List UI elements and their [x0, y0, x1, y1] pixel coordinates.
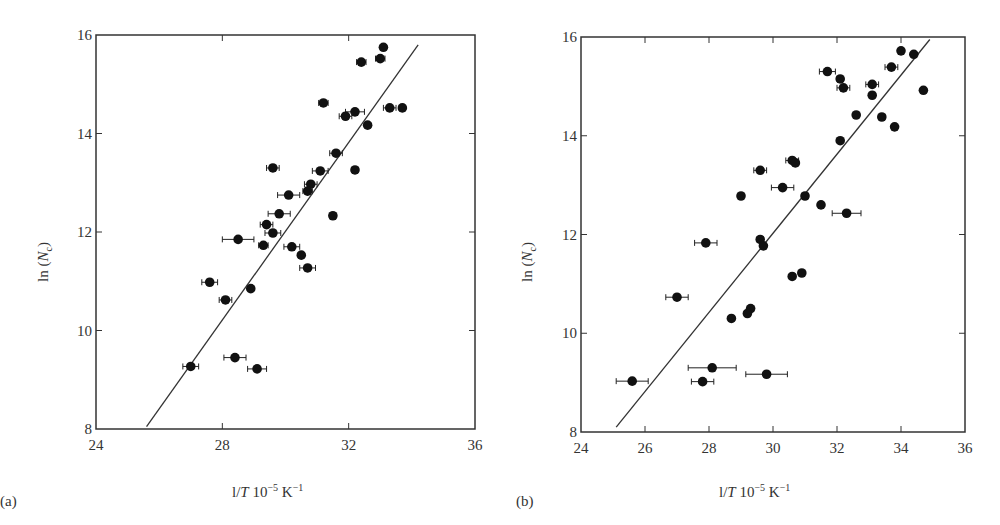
data-point: [698, 377, 708, 387]
data-point: [375, 54, 385, 64]
data-point: [743, 309, 753, 319]
x-tick-label: 24: [574, 440, 590, 456]
data-point: [867, 80, 877, 90]
data-point: [896, 46, 906, 56]
data-point: [233, 235, 243, 245]
data-point: [315, 166, 325, 176]
y-tick-label: 12: [77, 224, 92, 240]
data-point: [296, 250, 306, 260]
y-tick-label: 8: [570, 424, 578, 440]
data-point: [331, 148, 341, 158]
y-tick-label: 10: [562, 325, 577, 341]
x-tick-label: 36: [958, 440, 974, 456]
data-point: [262, 220, 272, 230]
x-tick-label: 32: [830, 440, 845, 456]
panel-a-chart: 24283236810121416: [77, 27, 483, 453]
data-point: [707, 363, 717, 373]
x-tick-label: 32: [341, 437, 356, 453]
data-point: [221, 295, 231, 305]
data-point: [627, 376, 637, 386]
data-point: [823, 67, 833, 77]
data-point: [816, 200, 826, 210]
y-tick-label: 12: [562, 227, 577, 243]
y-tick-label: 8: [85, 421, 93, 437]
data-point: [919, 86, 929, 96]
y-tick-label: 16: [562, 29, 578, 45]
data-point: [762, 369, 772, 379]
data-point: [835, 136, 845, 146]
x-tick-label: 34: [894, 440, 910, 456]
y-axis-label-a: ln (Nc): [35, 242, 54, 282]
data-point: [672, 292, 682, 302]
y-tick-label: 16: [77, 27, 93, 43]
data-point: [839, 83, 849, 93]
data-point: [890, 122, 900, 132]
x-tick-label: 36: [468, 437, 484, 453]
data-point: [887, 62, 897, 72]
data-point: [778, 183, 788, 193]
data-point: [791, 158, 801, 168]
data-point: [755, 166, 765, 176]
data-point: [350, 165, 360, 175]
data-point: [186, 362, 196, 372]
fit-line: [616, 39, 930, 427]
y-tick-label: 14: [77, 126, 93, 142]
data-point: [909, 49, 919, 59]
x-axis-label-a: l/T 10−5 K−1: [232, 482, 303, 500]
data-point: [787, 272, 797, 282]
figure: 24283236810121416 2426283032343681012141…: [0, 0, 1000, 525]
data-point: [259, 240, 269, 250]
data-point: [205, 277, 215, 287]
data-point: [877, 112, 887, 122]
y-tick-label: 10: [77, 323, 92, 339]
x-tick-label: 28: [702, 440, 717, 456]
data-point: [230, 353, 240, 363]
data-point: [800, 191, 810, 201]
data-point: [379, 43, 389, 53]
data-point: [363, 120, 373, 130]
panel-b-label: (b): [516, 493, 534, 510]
data-point: [797, 268, 807, 278]
data-point: [701, 238, 711, 248]
data-point: [341, 111, 351, 121]
data-point: [284, 190, 294, 200]
data-point: [398, 103, 408, 113]
data-point: [303, 263, 313, 273]
data-point: [328, 211, 338, 221]
data-point: [287, 242, 297, 252]
data-point: [246, 284, 256, 294]
x-axis-label-b: l/T 10−5 K−1: [719, 482, 790, 500]
data-point: [319, 98, 329, 108]
data-point: [736, 191, 746, 201]
data-point: [842, 208, 852, 218]
data-point: [268, 228, 278, 238]
data-point: [835, 74, 845, 84]
data-point: [385, 103, 395, 113]
data-point: [851, 110, 861, 120]
data-point: [274, 209, 284, 219]
data-point: [867, 90, 877, 100]
y-tick-label: 14: [562, 128, 578, 144]
panel-b-chart: 24262830323436810121416: [562, 29, 973, 456]
data-point: [759, 241, 769, 251]
panel-a-label: (a): [0, 493, 17, 510]
data-point: [303, 186, 313, 196]
data-point: [268, 163, 278, 173]
x-tick-label: 30: [766, 440, 781, 456]
x-tick-label: 24: [89, 437, 105, 453]
y-axis-label-b: ln (Nc): [519, 242, 538, 282]
data-point: [727, 314, 737, 324]
plot-frame: [581, 37, 965, 432]
x-tick-label: 28: [215, 437, 230, 453]
data-point: [252, 364, 262, 374]
data-point: [357, 57, 367, 67]
x-tick-label: 26: [638, 440, 654, 456]
